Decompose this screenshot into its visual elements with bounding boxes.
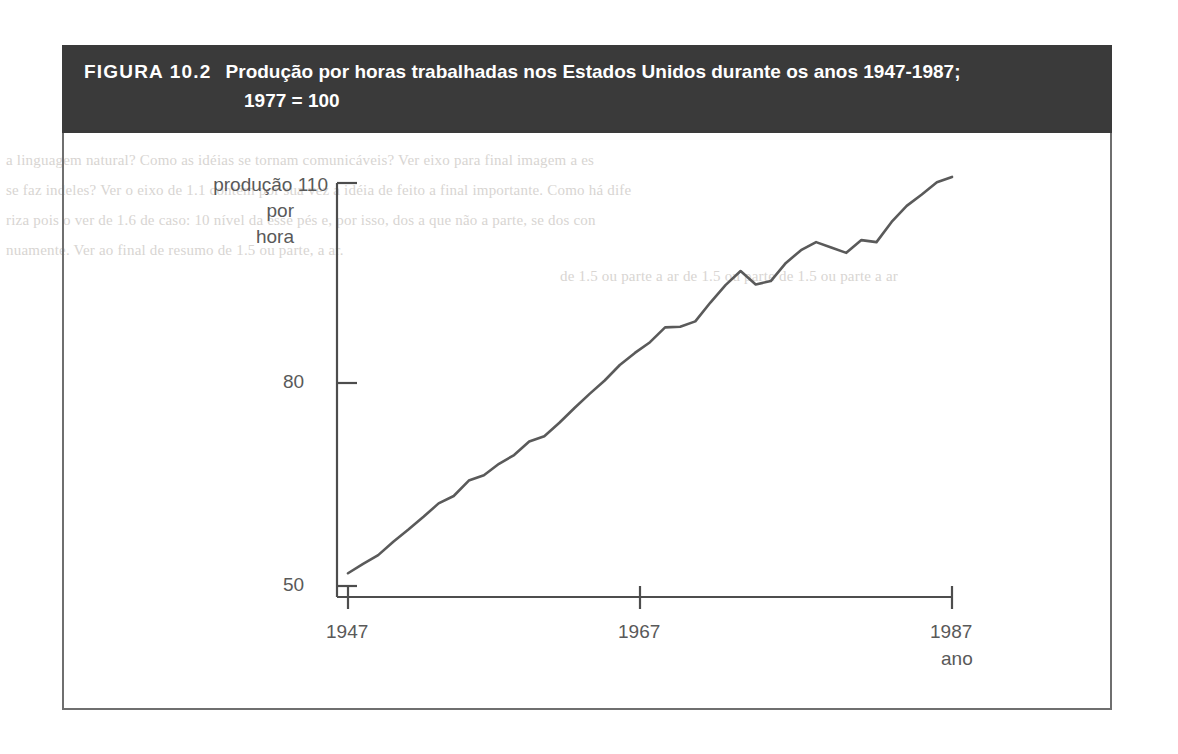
y-axis-label-row-1: produção 110 [196,172,328,198]
y-tick-label-110: 110 [298,174,328,195]
figure-frame [62,45,1112,710]
figure-header-line-1: FIGURA 10.2Produção por horas trabalhada… [84,57,1094,86]
figure-title-line-2: 1977 = 100 [84,86,1094,115]
y-tick-label-80: 80 [283,371,304,393]
x-tick-label-1967: 1967 [618,621,660,643]
x-tick-label-1987: 1987 [930,621,972,643]
y-tick-label-50: 50 [283,574,304,596]
figure-number-label: FIGURA 10.2 [84,61,212,82]
y-axis-label-text: produção [213,174,292,195]
x-axis-label: ano [941,648,973,670]
x-tick-label-1947: 1947 [326,621,368,643]
y-axis-label-block: produção 110 por hora [196,172,328,250]
y-axis-label-row-3: hora [196,224,328,250]
y-axis-label-row-2: por [196,198,328,224]
figure-header-band: FIGURA 10.2Produção por horas trabalhada… [62,45,1112,133]
figure-title-line-1: Produção por horas trabalhadas nos Estad… [226,61,961,82]
